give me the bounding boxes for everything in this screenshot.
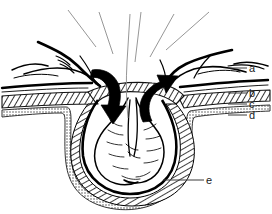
label-e: e (206, 175, 212, 186)
hernia-diagram-canvas (0, 0, 272, 214)
hernia-diagram-figure: a b c d e (0, 0, 272, 214)
label-a: a (249, 63, 255, 74)
label-d: d (249, 110, 255, 121)
